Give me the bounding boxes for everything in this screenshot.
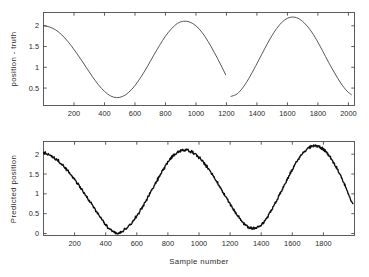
x-tick-label: 1000: [191, 239, 207, 248]
chart-panel-top: 2004006008001000120014001600180020000.51…: [0, 0, 369, 133]
y-tick-label: 2: [35, 21, 39, 30]
y-tick-label: 1: [35, 189, 39, 198]
y-tick-label: 0.5: [29, 209, 39, 218]
y-tick-label: 1.5: [29, 42, 39, 51]
bottom-y-axis-title: Predicted position: [9, 155, 18, 223]
x-tick-label: 1800: [310, 109, 326, 118]
y-tick-label: 2: [35, 150, 39, 159]
x-tick-label: 800: [162, 239, 174, 248]
x-tick-label: 1000: [188, 109, 204, 118]
x-tick-label: 600: [129, 109, 141, 118]
bottom-x-axis-title: Sample number: [169, 257, 229, 266]
x-tick-label: 200: [68, 239, 80, 248]
top-series-line-segment-1: [44, 21, 226, 97]
top-chart-svg: 2004006008001000120014001600180020000.51…: [0, 0, 369, 133]
x-tick-label: 600: [131, 239, 143, 248]
x-tick-label: 200: [68, 109, 80, 118]
figure-container: 2004006008001000120014001600180020000.51…: [0, 0, 369, 277]
top-y-axis-title: position - truth: [9, 31, 18, 86]
y-tick-label: 0.5: [29, 84, 39, 93]
x-tick-label: 1400: [253, 239, 269, 248]
x-tick-label: 1200: [218, 109, 234, 118]
top-series-line-segment-2: [231, 17, 351, 96]
x-tick-label: 800: [159, 109, 171, 118]
x-tick-label: 400: [100, 239, 112, 248]
x-tick-label: 1200: [222, 239, 238, 248]
y-tick-label: 1: [35, 63, 39, 72]
x-tick-label: 1400: [249, 109, 265, 118]
bottom-plot-frame: [44, 142, 355, 236]
chart-panel-bottom: 2004006008001000120014001600180000.511.5…: [0, 133, 369, 277]
y-tick-label: 0: [35, 229, 39, 238]
x-tick-label: 1600: [284, 239, 300, 248]
bottom-chart-svg: 2004006008001000120014001600180000.511.5…: [0, 133, 369, 277]
y-tick-label: 1.5: [29, 170, 39, 179]
bottom-axis-ticks: [44, 142, 355, 236]
x-tick-label: 400: [98, 109, 110, 118]
bottom-series-line: [44, 145, 353, 234]
x-tick-label: 1600: [279, 109, 295, 118]
top-axis-tick-labels: 2004006008001000120014001600180020000.51…: [29, 21, 357, 118]
x-tick-label: 1800: [315, 239, 331, 248]
x-tick-label: 2000: [340, 109, 356, 118]
